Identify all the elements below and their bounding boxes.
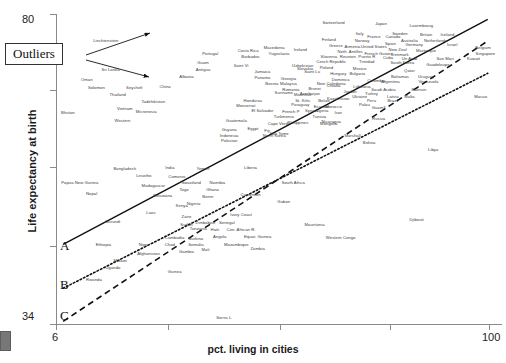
corner-scroll-widget[interactable] (0, 331, 11, 351)
scatter-point-label: Palau (359, 101, 370, 106)
scatter-point-label: Mali (202, 246, 210, 251)
scatter-point-label: Russia (372, 115, 385, 120)
scatter-point-label: South Korea (390, 59, 414, 64)
scatter-point-label: Angola (213, 234, 226, 239)
scatter-point-label: Macedonia (264, 45, 285, 50)
trend-line-label-b: B (60, 277, 69, 293)
scatter-point-label: Haiti (211, 226, 220, 231)
x-axis-tick-left (56, 324, 57, 330)
scatter-point-label: Hungary (330, 71, 346, 76)
scatter-point-label: Libya (428, 146, 438, 151)
scatter-point-label: Dominica (332, 77, 350, 82)
scatter-point-label: Rwanda (86, 276, 102, 281)
scatter-point-label: Togo (179, 187, 188, 192)
scatter-point-label: Malaysia (280, 81, 297, 86)
scatter-point-label: Venezuela (418, 79, 438, 84)
scatter-point-label: Malawi (113, 257, 126, 262)
scatter-point-label: Ivory Coast (230, 212, 252, 217)
scatter-point-label: Antigua (196, 66, 211, 71)
scatter-point-label: United States (361, 44, 387, 49)
scatter-point-label: Ethiopia (96, 242, 112, 247)
scatter-point-label: Costa Rica (238, 48, 259, 53)
scatter-point-label: Switzerland (322, 20, 344, 25)
scatter-point-label: Neth. Antilles (338, 49, 363, 54)
scatter-point-label: Italy (356, 30, 364, 35)
scatter-point-label: Papua New Guinea (61, 179, 98, 184)
scatter-point-label: Western Congo (326, 235, 356, 240)
scatter-point-label: Nigeria (187, 200, 201, 205)
scatter-point-label: Honduras (244, 97, 263, 102)
scatter-point-label: Uruguay (418, 74, 434, 79)
scatter-point-label: Botswana (153, 193, 172, 198)
scatter-point-label: Burkina (189, 236, 204, 241)
scatter-point-label: Qatar (404, 67, 415, 72)
scatter-point-label: Tunisia (312, 113, 326, 118)
y-axis-tick-2 (50, 90, 56, 91)
x-axis-tick-label-100: 100 (482, 331, 500, 343)
scatter-point-label: Saint Lu (304, 69, 320, 74)
scatter-point-label: Guatemala (226, 117, 247, 122)
scatter-point-label: Trinidad (359, 59, 374, 64)
scatter-point-label: Ukraine (352, 93, 367, 98)
scatter-point-label: Indonesia (220, 132, 239, 137)
scatter-point-label: Oman (81, 77, 93, 82)
scatter-point-label: Namibia (209, 180, 225, 185)
scatter-point-label: El Salvador (251, 107, 273, 112)
scatter-point-label: Macao (474, 94, 487, 99)
y-axis-tick-label-80: 80 (22, 13, 34, 25)
scatter-point-label: China (160, 84, 171, 89)
scatter-point-label: Sierra L. (216, 314, 232, 319)
x-axis-tick-label-6: 6 (52, 331, 58, 343)
scatter-point-label: Ireland (294, 47, 307, 52)
scatter-point-label: Liberia (244, 164, 257, 169)
scatter-point-label: Equat. Guinea (244, 233, 271, 238)
scatter-plot-canvas: 80 34 6 100 Life expectancy at birth pct… (0, 0, 506, 363)
scatter-point-label: Ghana (206, 187, 219, 192)
scatter-point-label: Israel (447, 42, 458, 47)
scatter-point-label: North Korea (263, 132, 286, 137)
x-axis-tick-3 (280, 324, 281, 330)
scatter-point-label: Mongolia (320, 121, 337, 126)
scatter-point-label: Finland (322, 36, 336, 41)
scatter-point-label: Tanzania (190, 226, 207, 231)
scatter-point-label: Bahrain (412, 87, 427, 92)
scatter-point-label: Portugal (202, 51, 218, 56)
scatter-point-label: Mauritania (305, 222, 325, 227)
scatter-point-label: Kenya (176, 203, 188, 208)
scatter-point-label: Pakistan (221, 138, 237, 143)
scatter-point-label: Britain (420, 31, 432, 36)
scatter-point-label: Germany (405, 42, 423, 47)
scatter-point-label: Swaziland (181, 180, 201, 185)
scatter-point-label: Guam3 (372, 105, 386, 110)
scatter-point-label: Saint Vi (234, 63, 249, 68)
scatter-point-label: Azerbaijan (300, 90, 320, 95)
scatter-point-label: Liechtenstein (93, 38, 118, 43)
scatter-point-label: Madagascar (141, 182, 165, 187)
scatter-point-label: Burundi (106, 218, 121, 223)
scatter-point-label: Bhutan (61, 109, 75, 114)
scatter-point-label: Panama (254, 75, 270, 80)
y-axis-tick-top (50, 14, 56, 15)
scatter-point-label: Brazil (387, 98, 398, 103)
scatter-point-label: Netherlands (424, 38, 447, 43)
scatter-point-label: Philippines (288, 119, 309, 124)
y-axis-tick-3 (50, 167, 56, 168)
scatter-point-label: Zimbabwe (196, 220, 216, 225)
scatter-point-label: Poland (320, 65, 333, 70)
x-axis-line (56, 324, 502, 325)
x-axis-tick-2 (168, 324, 169, 330)
outlier-arrow-liechtenstein (86, 33, 150, 55)
scatter-point-label: Cameroon (241, 191, 261, 196)
scatter-point-label: Paraguay (291, 102, 309, 107)
scatter-point-label: Mozambique (224, 242, 248, 247)
scatter-point-label: Niger (139, 241, 149, 246)
scatter-point-label: Vietnam (117, 106, 133, 111)
scatter-point-label: Norway (355, 38, 370, 43)
scatter-point-label: Croatia (327, 82, 341, 87)
scatter-point-label: Afghanistan (137, 251, 160, 256)
scatter-point-label: Thailand (109, 92, 125, 97)
x-axis-tick-4 (390, 324, 391, 330)
scatter-point-label: Georgia (281, 76, 296, 81)
x-axis-title: pct. living in cities (0, 343, 506, 355)
scatter-point-label: Cen. African R. (227, 226, 256, 231)
